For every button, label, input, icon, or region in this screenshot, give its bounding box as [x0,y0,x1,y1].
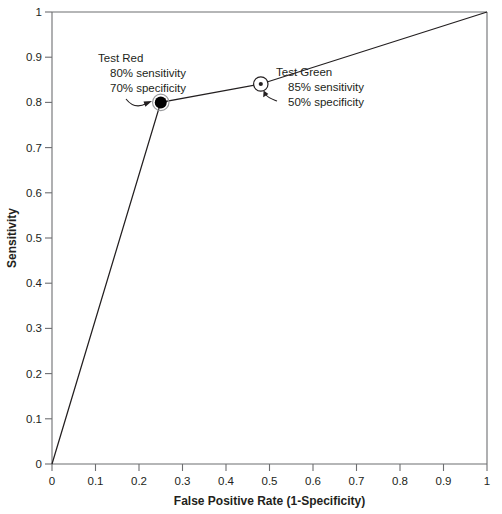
x-tick-label-0.5: 0.5 [262,475,278,487]
x-tick-label-0.1: 0.1 [88,475,104,487]
x-tick-label-0.2: 0.2 [131,475,147,487]
y-axis-title: Sensitivity [5,208,19,268]
y-tick-label-0.3: 0.3 [26,322,42,334]
x-tick-label-0.7: 0.7 [349,475,365,487]
y-tick-label-0.7: 0.7 [26,142,42,154]
test-red-label-specificity: 70% specificity [110,82,186,94]
test-green-label-sensitivity: 85% sensitivity [288,81,364,93]
y-tick-label-1: 1 [36,6,42,18]
test-red-label-sensitivity: 80% sensitivity [110,67,186,79]
x-tick-label-0.3: 0.3 [175,475,191,487]
x-axis-title: False Positive Rate (1-Specificity) [174,494,365,508]
y-tick-label-0.5: 0.5 [26,232,42,244]
test-green-label-title: Test Green [276,66,332,78]
y-tick-label-0.9: 0.9 [26,51,42,63]
y-tick-label-0.4: 0.4 [26,277,43,289]
x-tick-label-0.6: 0.6 [305,475,321,487]
y-tick-label-0.8: 0.8 [26,96,42,108]
x-tick-label-0.8: 0.8 [392,475,408,487]
x-tick-label-0.9: 0.9 [436,475,452,487]
x-tick-label-0.4: 0.4 [218,475,235,487]
x-tick-label-1: 1 [484,475,490,487]
chart-background [0,0,502,514]
test-green-label-specificity: 50% specificity [288,96,364,108]
test-green-marker-dot [259,82,263,86]
data-point-test-green[interactable] [254,77,268,91]
y-tick-label-0.1: 0.1 [26,413,42,425]
y-tick-label-0: 0 [36,458,42,470]
y-tick-label-0.2: 0.2 [26,368,42,380]
roc-chart-figure: 1 0.9 0.8 0.7 0.6 0.5 0.4 0.3 0.2 0.1 0 … [0,0,502,514]
x-tick-label-0: 0 [49,475,55,487]
data-point-test-red[interactable] [153,94,169,110]
test-red-marker-dot [155,96,167,108]
roc-chart-svg: 1 0.9 0.8 0.7 0.6 0.5 0.4 0.3 0.2 0.1 0 … [0,0,502,514]
y-tick-label-0.6: 0.6 [26,187,42,199]
test-red-label-title: Test Red [98,52,143,64]
